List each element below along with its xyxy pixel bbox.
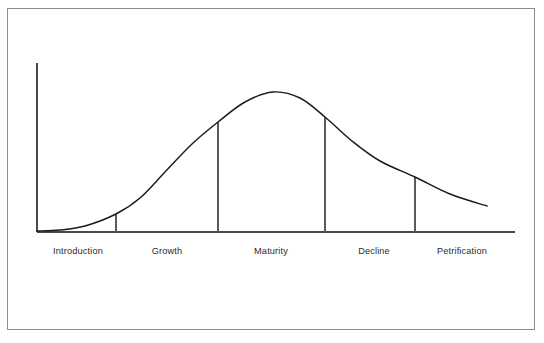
stage-label-maturity: Maturity xyxy=(254,246,288,256)
stage-label-petrification: Petrification xyxy=(437,246,487,256)
axes-group xyxy=(37,63,515,232)
life-cycle-curve xyxy=(37,92,487,231)
stage-label-introduction: Introduction xyxy=(53,246,103,256)
life-cycle-chart xyxy=(0,0,544,343)
stage-dividers-group xyxy=(116,117,415,232)
stage-label-growth: Growth xyxy=(152,246,183,256)
stage-label-decline: Decline xyxy=(358,246,390,256)
screenshot-root: Introduction Growth Maturity Decline Pet… xyxy=(0,0,544,343)
